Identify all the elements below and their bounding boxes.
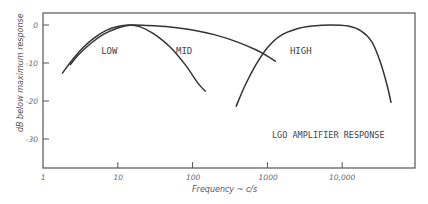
curve-low xyxy=(62,25,206,92)
x-axis-title: Frequency ~ c/s xyxy=(192,185,257,194)
curve-mid xyxy=(70,25,276,65)
curve-label-low: LOW xyxy=(101,46,118,56)
response-curves xyxy=(62,25,391,107)
curve-label-high: HIGH xyxy=(290,46,312,56)
x-axis-ticks: 110100100010,000 xyxy=(41,162,356,182)
y-axis-title: dB below maximum response xyxy=(16,13,25,132)
chart-annotation: LGO AMPLIFIER RESPONSE xyxy=(272,130,385,140)
y-axis-ticks: 0-10-20-30 xyxy=(26,21,49,144)
plot-frame xyxy=(43,13,415,168)
y-tick-label: -10 xyxy=(26,59,38,68)
curve-labels: LOWMIDHIGH xyxy=(101,46,311,56)
y-tick-label: -20 xyxy=(26,97,38,106)
y-tick-label: -30 xyxy=(26,135,38,144)
x-tick-label: 1000 xyxy=(259,173,278,182)
frequency-response-chart: 110100100010,000 0-10-20-30 LOWMIDHIGH L… xyxy=(0,0,428,204)
x-tick-label: 100 xyxy=(186,173,201,182)
curve-label-mid: MID xyxy=(176,46,192,56)
curve-high xyxy=(236,25,391,107)
x-tick-label: 1 xyxy=(41,173,46,182)
y-tick-label: 0 xyxy=(33,21,38,30)
x-tick-label: 10,000 xyxy=(329,173,355,182)
x-tick-label: 10 xyxy=(113,173,123,182)
